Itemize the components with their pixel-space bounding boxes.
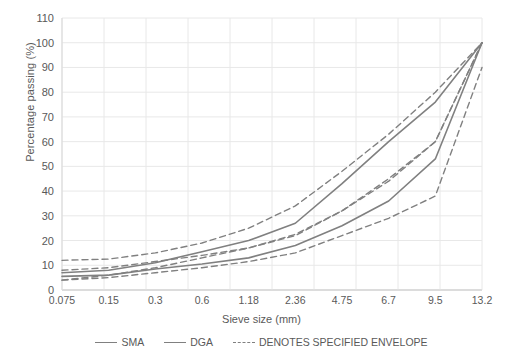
legend-item[interactable]: DGA xyxy=(164,336,213,348)
legend-dashed-line-icon xyxy=(233,342,255,343)
x-tick-label: 13.2 xyxy=(452,295,512,306)
legend-item[interactable]: DENOTES SPECIFIED ENVELOPE xyxy=(233,336,428,348)
legend-solid-line-icon xyxy=(164,342,186,343)
x-axis-title: Sieve size (mm) xyxy=(0,313,523,325)
legend-item[interactable]: SMA xyxy=(95,336,144,348)
plot-area xyxy=(0,0,523,361)
legend-label: DENOTES SPECIFIED ENVELOPE xyxy=(259,336,428,348)
legend-solid-line-icon xyxy=(95,342,117,343)
legend-label: DGA xyxy=(190,336,213,348)
chart-legend: SMADGADENOTES SPECIFIED ENVELOPE xyxy=(0,336,523,348)
legend-label: SMA xyxy=(121,336,144,348)
gradation-chart: Percentage passing (%) 01020304050607080… xyxy=(0,0,523,361)
